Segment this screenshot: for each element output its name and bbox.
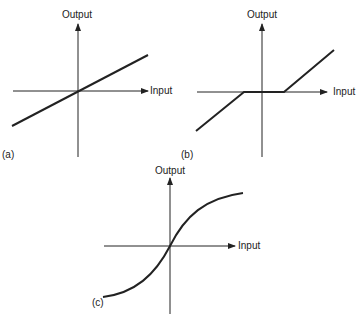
panel-a-input-label: Input	[150, 86, 172, 96]
panel-c	[103, 178, 243, 314]
panel-b	[196, 24, 334, 157]
panel-c-caption: (c)	[92, 298, 104, 308]
panel-b-caption: (b)	[181, 150, 193, 160]
panel-b-input-label: Input	[333, 87, 355, 97]
panel-a-output-label: Output	[62, 10, 92, 20]
figure-canvas	[0, 0, 363, 326]
panel-a	[12, 24, 148, 157]
panel-b-output-label: Output	[247, 10, 277, 20]
panel-c-saturation-curve	[103, 193, 243, 297]
panel-c-input-label: Input	[238, 241, 260, 251]
panel-a-caption: (a)	[2, 150, 14, 160]
panel-c-output-label: Output	[155, 166, 185, 176]
panel-b-deadzone-curve	[196, 50, 334, 131]
